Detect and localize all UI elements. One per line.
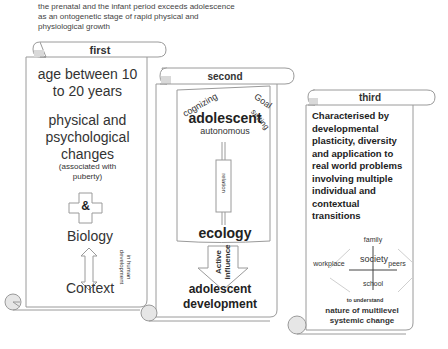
age-text: age between 10 to 20 years (30, 66, 145, 100)
autonomous-text: autonomous (190, 126, 260, 136)
family-label: family (355, 236, 391, 243)
school-label: school (355, 280, 391, 287)
scroll-first-title: first (60, 44, 140, 56)
adolescent-text: adolescent (185, 110, 265, 126)
scroll-second-title: second (190, 71, 260, 82)
ampersand: & (78, 199, 93, 213)
outcome-line1: adolescent (170, 282, 270, 296)
scroll-third-title: third (335, 92, 405, 103)
active-influence-text: Active influence (214, 240, 232, 285)
relation-text: relation (221, 163, 227, 203)
human-development-note: in human development (118, 242, 132, 292)
outcome-line2: development (170, 297, 270, 311)
puberty-note: (associated with puberty) (45, 162, 130, 182)
to-understand-label: to understand (330, 297, 400, 303)
peers-label: peers (382, 260, 412, 267)
third-conclusion: nature of multilevel systemic change (318, 306, 406, 326)
influence-text: influence (223, 244, 232, 279)
changes-text: physical and psychological changes (30, 112, 145, 163)
third-description: Characterised by developmental plasticit… (312, 110, 410, 223)
active-text: Active (214, 250, 223, 274)
workplace-label: workplace (308, 260, 350, 267)
